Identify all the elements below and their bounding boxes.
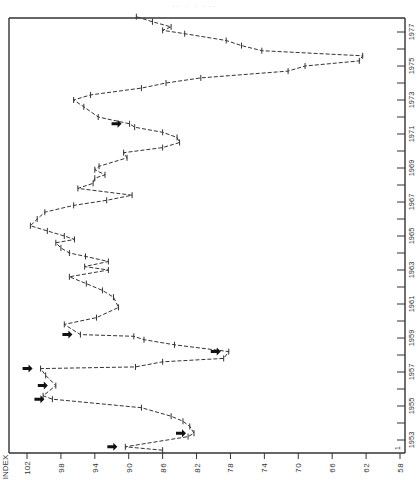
index-axis: 1029 89 49 08 68 27 87 47 06 66 25 8INDE…	[1, 453, 405, 479]
year-tick-label: 1969	[407, 160, 416, 177]
year-tick-label: 1961	[407, 296, 416, 313]
year-tick-label: 1975	[407, 58, 416, 75]
index-tick-label: 9 4	[91, 463, 100, 473]
index-line	[30, 17, 362, 451]
index-tick-label: 7 4	[260, 463, 269, 473]
arrow-icon	[176, 429, 186, 437]
year-tick-label: 1973	[407, 92, 416, 109]
index-series	[30, 14, 362, 454]
year-tick-label: 1977	[407, 24, 416, 41]
year-tick-label: 1965	[407, 228, 416, 245]
index-tick-label: 8 2	[193, 463, 202, 473]
index-tick-label: 9 8	[57, 463, 66, 473]
year-tick-label: 1967	[407, 194, 416, 211]
index-tick-label: 7 0	[294, 463, 303, 473]
index-tick-label: 6 2	[362, 463, 371, 473]
arrow-icon	[211, 348, 221, 356]
arrow-icon	[62, 331, 72, 339]
index-axis-label: INDEX	[1, 454, 10, 479]
year-tick-label: 1955	[407, 398, 416, 415]
index-tick-label: 7 8	[226, 463, 235, 473]
year-tick-label: 1957	[407, 364, 416, 381]
arrow-icon	[23, 365, 33, 373]
year-tick-label: 1959	[407, 330, 416, 347]
arrow-icon	[107, 443, 117, 451]
plot-frame	[9, 18, 405, 453]
index-tick-label: 5 8	[396, 463, 405, 473]
rotated-index-line-chart: 1029 89 49 08 68 27 87 47 06 66 25 8INDE…	[0, 0, 417, 480]
first-tick-label: 1	[394, 446, 401, 450]
year-tick-label: 1963	[407, 262, 416, 279]
index-tick-label: 8 6	[159, 463, 168, 473]
year-tick-label: 1953	[407, 432, 416, 449]
index-tick-label: 102	[23, 461, 32, 475]
year-tick-label: 1971	[407, 126, 416, 143]
arrow-icon	[38, 382, 48, 390]
index-tick-label: 6 6	[328, 463, 337, 473]
index-tick-label: 9 0	[125, 463, 134, 473]
